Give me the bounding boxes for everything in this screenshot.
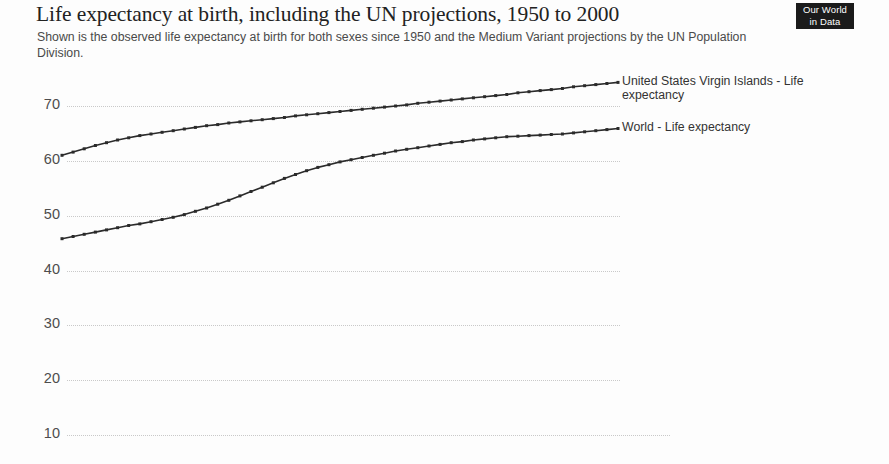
data-point[interactable]: [472, 139, 475, 142]
data-point[interactable]: [227, 122, 230, 125]
data-point[interactable]: [405, 103, 408, 106]
data-point[interactable]: [372, 154, 375, 157]
data-point[interactable]: [105, 228, 108, 231]
data-point[interactable]: [327, 111, 330, 114]
data-point[interactable]: [227, 199, 230, 202]
data-point[interactable]: [550, 133, 553, 136]
data-point[interactable]: [272, 181, 275, 184]
data-point[interactable]: [183, 213, 186, 216]
data-point[interactable]: [72, 235, 75, 238]
data-point[interactable]: [238, 120, 241, 123]
data-point[interactable]: [94, 144, 97, 147]
data-point[interactable]: [127, 136, 130, 139]
series-label-world[interactable]: World - Life expectancy: [622, 120, 822, 134]
data-point[interactable]: [617, 127, 620, 130]
data-point[interactable]: [250, 190, 253, 193]
data-point[interactable]: [572, 131, 575, 134]
data-point[interactable]: [183, 128, 186, 131]
data-point[interactable]: [305, 169, 308, 172]
data-point[interactable]: [461, 140, 464, 143]
data-point[interactable]: [394, 105, 397, 108]
data-point[interactable]: [505, 93, 508, 96]
data-point[interactable]: [361, 156, 364, 159]
series-line-world[interactable]: [62, 129, 618, 239]
series-line-usvi[interactable]: [62, 82, 618, 155]
data-point[interactable]: [172, 129, 175, 132]
data-point[interactable]: [339, 110, 342, 113]
data-point[interactable]: [583, 84, 586, 87]
data-point[interactable]: [450, 141, 453, 144]
data-point[interactable]: [383, 106, 386, 109]
data-point[interactable]: [294, 114, 297, 117]
data-point[interactable]: [305, 113, 308, 116]
data-point[interactable]: [161, 218, 164, 221]
data-point[interactable]: [372, 107, 375, 110]
data-point[interactable]: [394, 150, 397, 153]
data-point[interactable]: [605, 82, 608, 85]
data-point[interactable]: [350, 109, 353, 112]
data-point[interactable]: [494, 136, 497, 139]
data-point[interactable]: [316, 166, 319, 169]
data-point[interactable]: [583, 130, 586, 133]
data-point[interactable]: [72, 151, 75, 154]
data-point[interactable]: [539, 134, 542, 137]
data-point[interactable]: [205, 124, 208, 127]
data-point[interactable]: [327, 163, 330, 166]
data-point[interactable]: [439, 143, 442, 146]
data-point[interactable]: [483, 95, 486, 98]
data-point[interactable]: [105, 141, 108, 144]
our-world-in-data-logo[interactable]: Our World in Data: [796, 3, 854, 29]
data-point[interactable]: [261, 186, 264, 189]
data-point[interactable]: [461, 97, 464, 100]
data-point[interactable]: [550, 88, 553, 91]
data-point[interactable]: [216, 123, 219, 126]
data-point[interactable]: [83, 233, 86, 236]
data-point[interactable]: [361, 108, 364, 111]
data-point[interactable]: [194, 210, 197, 213]
data-point[interactable]: [528, 134, 531, 137]
data-point[interactable]: [594, 129, 597, 132]
data-point[interactable]: [161, 131, 164, 134]
data-point[interactable]: [216, 203, 219, 206]
data-point[interactable]: [605, 128, 608, 131]
data-point[interactable]: [617, 81, 620, 84]
data-point[interactable]: [116, 226, 119, 229]
data-point[interactable]: [127, 224, 130, 227]
data-point[interactable]: [272, 117, 275, 120]
data-point[interactable]: [516, 135, 519, 138]
data-point[interactable]: [261, 118, 264, 121]
data-point[interactable]: [350, 158, 353, 161]
data-point[interactable]: [61, 237, 64, 240]
data-point[interactable]: [339, 160, 342, 163]
data-point[interactable]: [94, 231, 97, 234]
data-point[interactable]: [294, 173, 297, 176]
series-label-united-states-virgin-islands[interactable]: United States Virgin Islands - Lifeexpec…: [622, 74, 830, 102]
data-point[interactable]: [428, 101, 431, 104]
data-point[interactable]: [238, 194, 241, 197]
data-point[interactable]: [138, 222, 141, 225]
data-point[interactable]: [283, 177, 286, 180]
data-point[interactable]: [150, 133, 153, 136]
data-point[interactable]: [428, 145, 431, 148]
data-point[interactable]: [138, 134, 141, 137]
data-point[interactable]: [472, 96, 475, 99]
data-point[interactable]: [539, 89, 542, 92]
data-point[interactable]: [516, 91, 519, 94]
data-point[interactable]: [450, 99, 453, 102]
data-point[interactable]: [116, 139, 119, 142]
data-point[interactable]: [594, 83, 597, 86]
data-point[interactable]: [483, 137, 486, 140]
data-point[interactable]: [405, 148, 408, 151]
data-point[interactable]: [283, 116, 286, 119]
data-point[interactable]: [505, 135, 508, 138]
data-point[interactable]: [383, 152, 386, 155]
data-point[interactable]: [316, 112, 319, 115]
data-point[interactable]: [194, 126, 197, 129]
data-point[interactable]: [528, 90, 531, 93]
data-point[interactable]: [205, 207, 208, 210]
data-point[interactable]: [572, 85, 575, 88]
data-point[interactable]: [439, 100, 442, 103]
data-point[interactable]: [416, 102, 419, 105]
data-point[interactable]: [494, 94, 497, 97]
data-point[interactable]: [150, 220, 153, 223]
